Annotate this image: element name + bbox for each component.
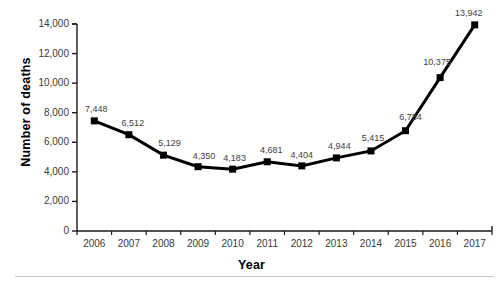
y-tick-label: 2,000 [9,195,69,206]
footer-divider [15,276,494,277]
chart-figure: Number of deaths Year 02,0004,0006,0008,… [0,0,503,290]
data-point-label: 10,375 [415,57,459,67]
y-tick-label: 14,000 [9,18,69,29]
data-point-label: 4,404 [280,150,324,160]
y-tick-label: 12,000 [9,48,69,59]
y-tick-label: 6,000 [9,136,69,147]
data-point-label: 5,129 [147,138,191,148]
x-tick-label: 2017 [453,238,497,249]
x-axis-title: Year [0,258,503,272]
y-tick-label: 10,000 [9,77,69,88]
data-point-label: 13,942 [447,8,491,18]
data-point-label: 6,512 [111,118,155,128]
data-point-label: 7,448 [74,104,118,114]
y-tick-label: 0 [9,225,69,236]
data-point-label: 6,784 [389,112,433,122]
data-point-label: 5,415 [351,133,395,143]
y-tick-label: 4,000 [9,166,69,177]
y-tick-label: 8,000 [9,107,69,118]
